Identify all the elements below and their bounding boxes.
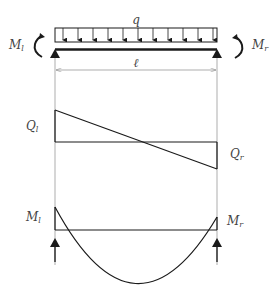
left-moment-label: Ml xyxy=(8,38,24,53)
distributed-load: q xyxy=(55,13,217,42)
shear-right-label: Qr xyxy=(230,147,245,162)
moment-diagram xyxy=(55,207,217,284)
right-moment-label: Mr xyxy=(251,38,269,53)
beam-diagram: q Ml Mr ℓ Ql Qr Ml Mr xyxy=(0,0,271,289)
right-reaction-arrow-icon xyxy=(212,238,222,262)
left-reaction-arrow-icon xyxy=(50,238,60,262)
moment-left-label: Ml xyxy=(25,210,41,225)
load-arrows xyxy=(63,28,213,40)
shear-left-label: Ql xyxy=(26,119,39,134)
shear-diagram xyxy=(55,110,217,169)
moment-right-label: Mr xyxy=(226,214,244,229)
load-label: q xyxy=(132,13,140,27)
left-moment-arrow-icon xyxy=(35,33,45,57)
span-label: ℓ xyxy=(134,56,139,70)
right-moment-arrow-icon xyxy=(232,34,242,58)
